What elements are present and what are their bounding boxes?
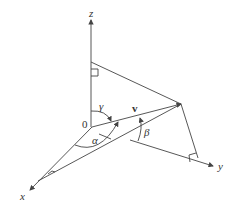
projection-to-y: [181, 104, 198, 158]
z-label: z: [88, 7, 94, 19]
y-label: y: [217, 160, 223, 172]
x-label: x: [19, 190, 25, 202]
right-angle-y: [189, 155, 190, 162]
projection-to-z: [91, 62, 181, 104]
direction-angles-diagram: z x y 0 v γ α β: [0, 0, 235, 209]
right-angle-z: [91, 69, 98, 76]
alpha-label: α: [92, 134, 98, 146]
beta-arc: [138, 118, 141, 141]
origin-label: 0: [82, 118, 88, 130]
gamma-arc: [91, 111, 111, 121]
y-axis: [130, 140, 213, 166]
v-label: v: [132, 102, 138, 114]
projection-to-x: [38, 104, 181, 181]
gamma-label: γ: [99, 100, 104, 112]
beta-label: β: [143, 126, 150, 138]
